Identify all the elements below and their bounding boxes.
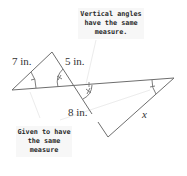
callout-vertical-angles: Vertical angles have the same measure. bbox=[78, 8, 144, 39]
callout-bottom-line-1: Given to have bbox=[16, 128, 72, 137]
callout-top-line-1: Vertical angles bbox=[78, 10, 144, 19]
callout-bottom-line-2: the same bbox=[16, 137, 72, 146]
label-7in: 7 in. bbox=[12, 55, 32, 67]
transversal-line bbox=[12, 78, 174, 90]
side-8in-lower bbox=[98, 122, 108, 137]
angle-tick-right bbox=[150, 86, 155, 87]
label-5in: 5 in. bbox=[65, 55, 85, 67]
side-x bbox=[108, 78, 174, 137]
callout-given-measure: Given to have the same measure bbox=[16, 126, 72, 157]
callout-top-line-2: have the same bbox=[78, 19, 144, 28]
callout-bottom-line-3: measure bbox=[16, 146, 72, 155]
callout-leader-top bbox=[86, 40, 96, 84]
callout-top-line-3: measure. bbox=[78, 28, 144, 37]
label-8in: 8 in. bbox=[68, 106, 88, 118]
angle-tick-left bbox=[31, 79, 35, 80]
angle-arc-right bbox=[152, 80, 156, 94]
callout-leader-bottom-left bbox=[30, 92, 40, 118]
label-x: x bbox=[142, 108, 147, 120]
